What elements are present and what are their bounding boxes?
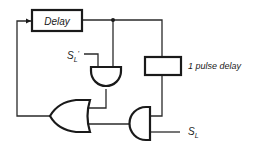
or-gate	[50, 100, 90, 132]
arrow-icon	[26, 19, 31, 24]
sl-prime-wire	[84, 54, 98, 66]
junction-dot	[111, 18, 115, 22]
delay-output-wire	[82, 20, 162, 57]
delay-block: Delay	[32, 10, 82, 31]
and-gate-top	[91, 67, 121, 86]
logic-circuit-diagram: Delay 1 pulse delay SL' SL	[0, 0, 253, 144]
and-to-or-wire	[88, 89, 106, 108]
sl-prime-label: SL'	[67, 49, 80, 63]
and-gate-bottom	[130, 107, 151, 140]
delay-label: Delay	[44, 16, 71, 27]
feedback-wire	[17, 21, 50, 116]
pulse-delay-label: 1 pulse delay	[188, 61, 242, 71]
pulse-delay-block: 1 pulse delay	[145, 57, 242, 75]
pulse-delay-to-and-wire	[150, 75, 162, 116]
sl-label: SL	[188, 126, 199, 139]
